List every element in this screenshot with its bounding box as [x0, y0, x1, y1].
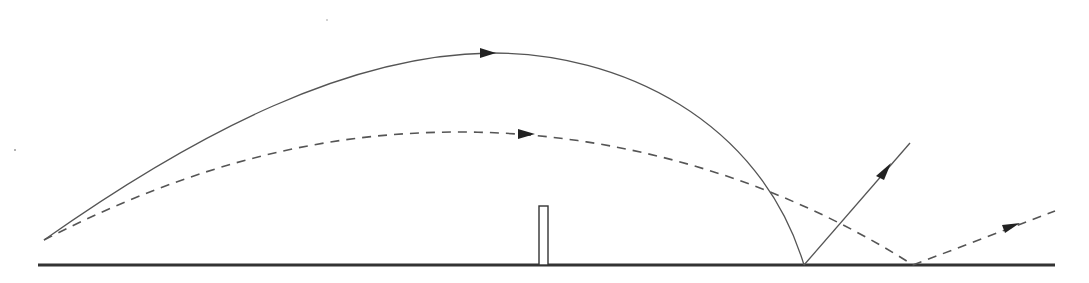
- post: [539, 206, 548, 265]
- low-trajectory-rebound: [913, 211, 1055, 265]
- high-rebound-arrow-icon: [876, 163, 891, 180]
- speck: [14, 149, 16, 151]
- high-trajectory-arrow-icon: [480, 48, 496, 58]
- high-trajectory-curve: [44, 53, 804, 265]
- low-trajectory-curve: [44, 132, 913, 265]
- low-rebound-arrow-icon: [1002, 223, 1020, 233]
- low-trajectory-arrow-icon: [518, 129, 535, 139]
- trajectory-diagram: [0, 0, 1089, 283]
- high-trajectory-rebound: [804, 143, 910, 265]
- speck: [326, 19, 328, 21]
